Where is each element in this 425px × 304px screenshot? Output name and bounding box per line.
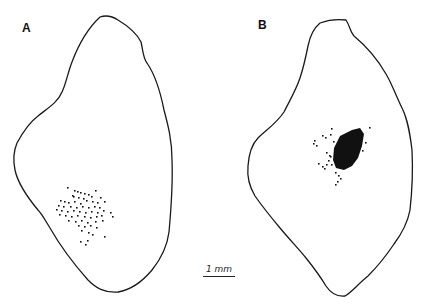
scale-bar-line: [203, 276, 235, 277]
figure-canvas: [0, 0, 425, 304]
scale-bar: 1 mm: [203, 264, 235, 277]
outline-a: [14, 16, 172, 292]
dots-a: [56, 187, 114, 246]
outline-b: [248, 20, 413, 297]
scale-bar-label: 1 mm: [203, 264, 235, 275]
dots-b: [313, 127, 371, 186]
